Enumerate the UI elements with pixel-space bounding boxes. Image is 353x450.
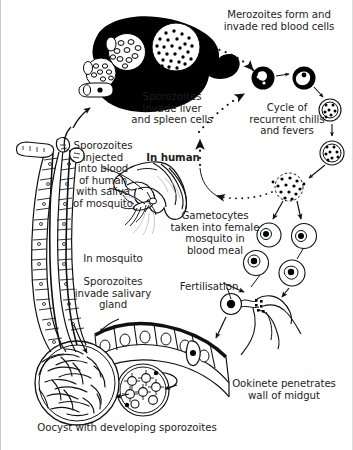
label-sporozoites-invade-liver: Sporozoites invade liver and spleen cell… (113, 91, 231, 126)
label-ookinete-penetrates: Ookinete penetrates wall of midgut (225, 378, 343, 401)
hepatocyte-with-sporozoite (79, 83, 113, 97)
label-fertilisation: Fertilisation (169, 281, 249, 293)
label-sporozoites-injected: Sporozoites injected into blood of human… (55, 140, 151, 210)
malaria-life-cycle-figure: Merozoites form and invade red blood cel… (0, 0, 353, 450)
label-in-mosquito: In mosquito (71, 253, 155, 265)
infected-red-blood-cell-trophozoite (293, 67, 316, 90)
label-gametocytes: Gametocytes taken into female mosquito i… (162, 210, 268, 256)
label-sporozoites-invade-salivary-gland: Sporozoites invade salivary gland (61, 276, 165, 311)
infected-red-blood-cell-ring-stage (252, 67, 275, 90)
dotted-arrow-vertical-cycle (200, 140, 217, 196)
label-merozoites: Merozoites form and invade red blood cel… (209, 9, 349, 32)
ookinete-penetrating-wall (186, 341, 200, 366)
label-in-human: In human (141, 152, 205, 164)
hepatocyte-with-merozoites (152, 23, 200, 71)
label-oocyst-with-sporozoites: Oocyst with developing sporozoites (19, 422, 235, 434)
bursting-red-blood-cell-merozoites (272, 173, 306, 201)
microgametocyte (292, 224, 317, 249)
exflagellating-microgametes (241, 296, 301, 355)
oocyst-with-developing-sporozoites-small (117, 364, 177, 416)
label-cycle-of-recurrent-chills: Cycle of recurrent chills and fevers (237, 102, 337, 137)
microgamete-exflagellation (279, 260, 305, 286)
infected-red-blood-cell-late-schizont (320, 141, 344, 165)
oocyst-with-sporozoites-mature (35, 341, 129, 425)
blood-cell-cycle (217, 67, 344, 220)
zygote-formation (221, 294, 260, 315)
